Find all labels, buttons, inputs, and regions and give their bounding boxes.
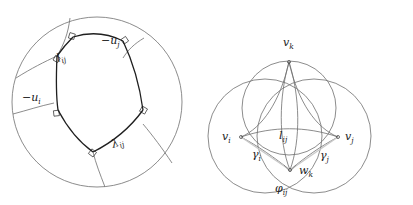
figure-svg: lij −uj −ui λij (0, 0, 413, 205)
label-v-i: vi (222, 130, 231, 145)
label-minus-u-i: −ui (22, 91, 41, 106)
label-minus-u-j: −uj (101, 34, 120, 49)
geodesic-extension-left-upper (16, 56, 57, 78)
right-panel-group: vk vi vj lij γi γj wk (208, 36, 371, 197)
arc-vk-wk-left (281, 62, 290, 170)
geodesic-extension-left-lower (13, 103, 54, 114)
label-l-ij-right: lij (279, 129, 288, 144)
label-gamma-j: γj (320, 149, 330, 164)
circle-j (257, 79, 371, 193)
arc-vk-wk-right (289, 62, 298, 170)
pentagon-side-right (123, 41, 143, 110)
arc-vi-vj (241, 129, 338, 137)
pentagon-side-lower-left (58, 110, 93, 152)
label-v-j: vj (345, 130, 354, 145)
geodesic-extension-bottom (93, 152, 105, 187)
math-figure-canvas: lij −uj −ui λij (0, 0, 413, 205)
geodesic-extension-lower-right (143, 124, 172, 163)
right-panel-labels: vk vi vj lij γi γj wk (222, 36, 354, 197)
left-panel-group: lij −uj −ui λij (12, 17, 182, 187)
label-varphi-ij: φij (275, 182, 288, 197)
label-v-k: vk (283, 36, 294, 51)
label-w-k: wk (299, 164, 313, 179)
